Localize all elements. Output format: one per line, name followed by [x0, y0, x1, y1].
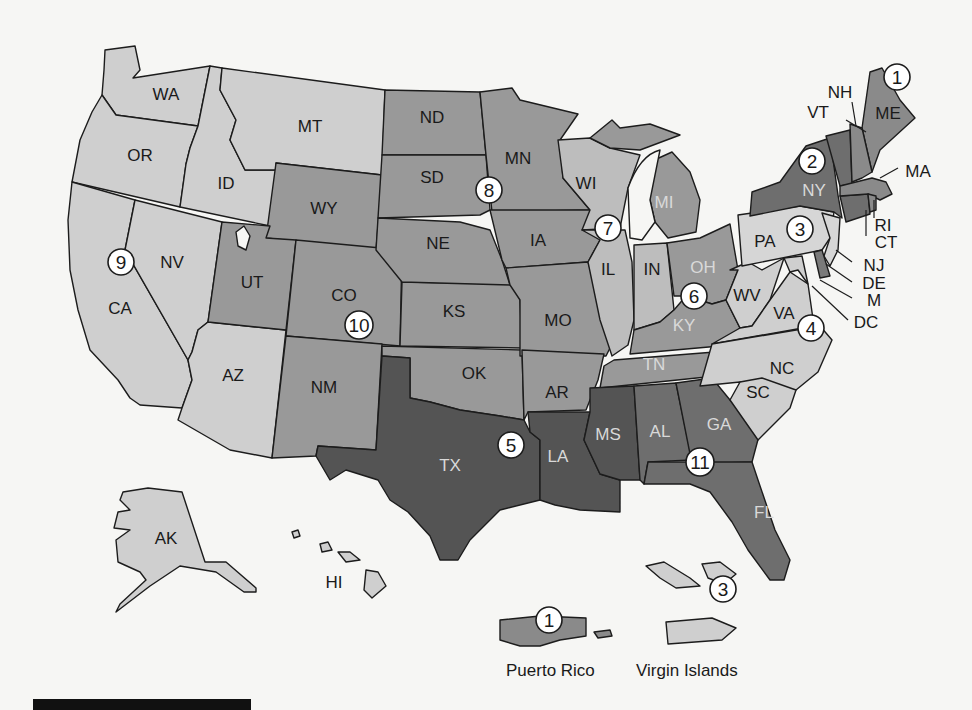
svg-text:ID: ID	[218, 174, 235, 193]
svg-text:NY: NY	[802, 181, 826, 200]
svg-text:WI: WI	[576, 174, 597, 193]
svg-text:5: 5	[506, 435, 517, 456]
svg-text:NJ: NJ	[864, 256, 885, 275]
svg-text:11: 11	[690, 452, 710, 473]
vi-st-thomas[interactable]	[646, 562, 700, 588]
puerto-rico-label: Puerto Rico	[506, 661, 595, 681]
us-judicial-circuits-map: WA OR CA NV ID MT AZ AK HI WY UT CO NM K…	[0, 0, 972, 710]
svg-text:IL: IL	[601, 260, 615, 279]
svg-text:CA: CA	[108, 299, 132, 318]
state-ri[interactable]	[868, 194, 876, 212]
svg-text:MI: MI	[655, 193, 674, 212]
svg-text:SC: SC	[746, 383, 770, 402]
svg-text:LA: LA	[548, 447, 569, 466]
svg-text:HI: HI	[326, 573, 343, 592]
vi-st-croix[interactable]	[666, 618, 736, 644]
svg-text:GA: GA	[707, 415, 732, 434]
svg-text:NV: NV	[160, 253, 184, 272]
ak-hi	[114, 488, 386, 612]
svg-text:TX: TX	[439, 456, 461, 475]
svg-text:OR: OR	[127, 146, 153, 165]
circuit-badge-10[interactable]: 10	[345, 311, 373, 339]
svg-text:2: 2	[807, 151, 818, 172]
svg-text:ME: ME	[875, 104, 901, 123]
territories	[500, 562, 736, 646]
state-hi-4[interactable]	[364, 570, 386, 598]
svg-text:OH: OH	[690, 258, 716, 277]
svg-text:TN: TN	[643, 355, 666, 374]
svg-text:10: 10	[348, 315, 369, 336]
svg-text:KY: KY	[673, 316, 696, 335]
svg-text:VA: VA	[773, 304, 795, 323]
svg-text:MO: MO	[544, 311, 571, 330]
svg-text:8: 8	[484, 180, 495, 201]
svg-text:PA: PA	[754, 232, 776, 251]
svg-text:DC: DC	[854, 313, 879, 332]
svg-text:1: 1	[544, 610, 555, 631]
svg-text:UT: UT	[241, 273, 264, 292]
circuit-badge-4[interactable]: 4	[798, 315, 824, 341]
svg-text:KS: KS	[443, 302, 466, 321]
state-ny[interactable]	[750, 138, 842, 218]
svg-text:MN: MN	[505, 149, 531, 168]
svg-text:9: 9	[116, 252, 127, 273]
svg-text:NC: NC	[770, 359, 795, 378]
svg-text:3: 3	[718, 579, 729, 600]
state-az[interactable]	[178, 322, 286, 458]
black-bar-decoration	[33, 699, 251, 710]
circuit-badge-8[interactable]: 8	[476, 177, 502, 203]
circuit-badge-11[interactable]: 11	[686, 448, 714, 476]
svg-text:WA: WA	[153, 85, 180, 104]
svg-text:FL: FL	[754, 503, 774, 522]
svg-text:4: 4	[806, 318, 817, 339]
circuit-badge-2[interactable]: 2	[799, 148, 825, 174]
circuit-badge-1[interactable]: 1	[884, 64, 910, 90]
virgin-islands-label: Virgin Islands	[636, 661, 738, 681]
state-nm[interactable]	[272, 336, 382, 458]
svg-text:MT: MT	[298, 117, 323, 136]
svg-text:IA: IA	[530, 231, 547, 250]
circuit-badge-5[interactable]: 5	[498, 432, 524, 458]
state-mi-upper[interactable]	[590, 120, 680, 150]
svg-text:IN: IN	[644, 260, 661, 279]
svg-text:SD: SD	[420, 168, 444, 187]
svg-text:CO: CO	[331, 286, 357, 305]
svg-text:WV: WV	[733, 286, 761, 305]
svg-text:WY: WY	[310, 199, 337, 218]
svg-text:7: 7	[603, 218, 614, 239]
svg-text:6: 6	[689, 286, 700, 307]
state-sd[interactable]	[378, 155, 490, 218]
svg-text:VT: VT	[807, 103, 829, 122]
circuit-badge-3[interactable]: 3	[787, 216, 813, 242]
circuit-badge-1-puerto-rico[interactable]: 1	[536, 607, 562, 633]
state-hi-3[interactable]	[338, 552, 360, 562]
svg-text:CT: CT	[875, 233, 898, 252]
svg-text:3: 3	[795, 219, 806, 240]
puerto-rico-islet[interactable]	[594, 630, 612, 638]
state-hi-2[interactable]	[320, 542, 332, 552]
svg-text:AK: AK	[155, 529, 178, 548]
svg-text:1: 1	[892, 67, 903, 88]
svg-text:NH: NH	[828, 83, 853, 102]
svg-text:AZ: AZ	[222, 366, 244, 385]
circuit-badge-3-virgin-islands[interactable]: 3	[710, 576, 736, 602]
circuit-badge-7[interactable]: 7	[595, 215, 621, 241]
circuit-badge-9[interactable]: 9	[108, 249, 134, 275]
svg-text:M: M	[867, 291, 881, 310]
svg-text:OK: OK	[462, 364, 487, 383]
svg-text:ND: ND	[420, 108, 445, 127]
svg-text:MS: MS	[595, 425, 621, 444]
state-ak[interactable]	[114, 488, 256, 612]
svg-text:AR: AR	[545, 383, 569, 402]
svg-text:NE: NE	[426, 234, 450, 253]
svg-text:AL: AL	[650, 422, 671, 441]
state-hi-1[interactable]	[292, 530, 300, 538]
svg-text:NM: NM	[311, 378, 337, 397]
circuit-badge-6[interactable]: 6	[681, 283, 707, 309]
svg-text:MA: MA	[905, 162, 931, 181]
